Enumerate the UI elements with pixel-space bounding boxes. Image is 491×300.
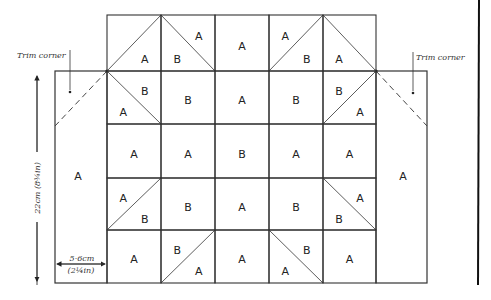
patch-label: B [173, 244, 181, 257]
patch-label: B [238, 148, 246, 161]
patch-label: A [238, 253, 246, 266]
grid-cell: A [215, 230, 269, 283]
patch-label: B [292, 201, 300, 214]
grid-cell: A [269, 124, 323, 178]
patch-label: A [195, 30, 203, 43]
patch-label: A [141, 53, 149, 66]
patch-label: B [335, 85, 343, 98]
trim-line-left [55, 71, 107, 126]
grid-cell: B [161, 178, 215, 230]
cell-diagonal [161, 230, 215, 283]
patch-label: A [281, 30, 289, 43]
cell-diagonal [107, 71, 161, 124]
block-grid: ABAAABAABBABBAAABAAABBABBAABAAABA [107, 15, 376, 283]
grid-cell: A [107, 124, 161, 178]
patch-label: A [292, 148, 300, 161]
cell-diagonal [323, 71, 376, 124]
grid-cell: A [215, 178, 269, 230]
grid-cell: AB [269, 230, 323, 283]
patch-label: B [173, 53, 181, 66]
trim-corner-label-right: Trim corner [416, 53, 466, 62]
cell-diagonal [161, 15, 215, 71]
patch-label: A [346, 148, 354, 161]
cell-diagonal [269, 230, 323, 283]
width-dimension-in: (2¼in) [68, 266, 95, 275]
trim-corner-label-left: Trim corner [17, 51, 67, 60]
grid-cell: A [161, 124, 215, 178]
patch-label: A [195, 265, 203, 278]
patch-label: A [356, 106, 364, 119]
cell-diagonal [323, 178, 376, 230]
patch-label: A [238, 40, 246, 53]
grid-cell: A [323, 230, 376, 283]
trim-pointer-dot-right [412, 92, 415, 95]
patch-label: B [141, 213, 149, 226]
trim-line-right [376, 71, 427, 126]
grid-cell: A [215, 15, 269, 71]
patch-label: A [281, 265, 289, 278]
patch-label: B [335, 213, 343, 226]
grid-cell: A [323, 124, 376, 178]
right-panel-label: A [399, 170, 407, 183]
patch-label: B [292, 94, 300, 107]
grid-cell: A [215, 71, 269, 124]
grid-cell: A [107, 15, 161, 71]
grid-cell: B [269, 71, 323, 124]
grid-cell: B [161, 71, 215, 124]
quilt-block-diagram: ABAAABAABBABBAAABAAABBABBAABAAABA A A Tr… [0, 0, 491, 300]
patch-label: A [184, 148, 192, 161]
grid-cell: BA [161, 15, 215, 71]
grid-cell: BA [323, 178, 376, 230]
patch-label: A [130, 253, 138, 266]
grid-cell: AB [107, 178, 161, 230]
left-panel-label: A [74, 170, 82, 183]
grid-cell: A [323, 15, 376, 71]
patch-label: A [119, 192, 127, 205]
patch-label: B [184, 201, 192, 214]
height-dimension-label: 22cm (8¾in) [33, 162, 42, 215]
cell-diagonal [107, 15, 161, 71]
cell-diagonal [107, 178, 161, 230]
page-edge-rule [478, 0, 479, 285]
patch-label: A [356, 192, 364, 205]
grid-cell: AB [107, 71, 161, 124]
patch-label: A [119, 106, 127, 119]
grid-cell: AB [269, 15, 323, 71]
grid-cell: B [215, 124, 269, 178]
grid-cell: BA [323, 71, 376, 124]
grid-cell: A [107, 230, 161, 283]
grid-cell: B [269, 178, 323, 230]
trim-pointer-dot-left [69, 91, 72, 94]
grid-cell: BA [161, 230, 215, 283]
patch-label: A [238, 94, 246, 107]
patch-label: B [303, 244, 311, 257]
patch-label: B [141, 85, 149, 98]
patch-label: B [184, 94, 192, 107]
patch-label: B [303, 53, 311, 66]
patch-label: A [346, 253, 354, 266]
patch-label: A [238, 201, 246, 214]
patch-label: A [130, 148, 138, 161]
patch-label: A [335, 53, 343, 66]
cell-diagonal [269, 15, 323, 71]
cell-diagonal [323, 15, 376, 71]
width-dimension-cm: 5·6cm [70, 254, 95, 263]
